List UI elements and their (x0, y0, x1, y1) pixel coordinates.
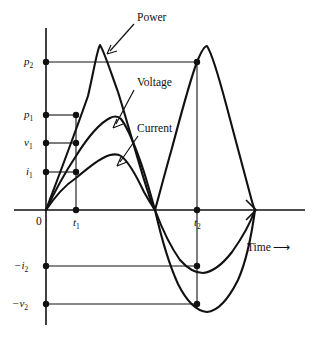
x-tick-sub-t1: 1 (76, 222, 80, 231)
y-tick-sub-v1: 1 (29, 142, 33, 151)
point-neg-i2-at-t2 (194, 263, 200, 269)
y-tick-sub-p2: 2 (30, 61, 34, 70)
waveform-plot (0, 0, 322, 337)
point-p2-axis (43, 59, 49, 65)
point-t2-axis (194, 207, 200, 213)
y-tick-label-i1: i1 (26, 166, 33, 180)
y-tick-label-neg-v2: −v2 (12, 298, 28, 312)
y-tick-label-p2: p2 (24, 56, 33, 70)
y-tick-label-p1: p1 (24, 109, 33, 123)
point-p2-at-t2 (194, 59, 200, 65)
point-t1-axis (73, 207, 79, 213)
x-tick-sub-t2: 2 (197, 222, 201, 231)
x-tick-label-t2: t2 (194, 217, 201, 231)
current-label: Current (137, 123, 172, 135)
y-tick-label-v1: v1 (24, 137, 33, 151)
power-leader-line (110, 24, 134, 51)
x-axis-label-text: Time (247, 241, 271, 253)
point-neg-v2-at-t2 (194, 301, 200, 307)
point-p1-at-t1 (73, 112, 79, 118)
point-v1-axis (43, 140, 49, 146)
y-tick-sub-neg-v2: 2 (24, 303, 28, 312)
power-label: Power (137, 12, 166, 24)
voltage-curve (46, 117, 255, 312)
origin-label: 0 (36, 216, 42, 228)
point-p1-axis (43, 112, 49, 118)
point-neg-i2-axis (43, 263, 49, 269)
point-i1-at-t1 (73, 169, 79, 175)
y-tick-sub-i1: 1 (29, 171, 33, 180)
x-tick-label-t1: t1 (73, 217, 80, 231)
marked-points (43, 59, 200, 307)
figure-root: p2 p1 v1 i1 −i2 −v2 0 t1 t2 Power Voltag… (0, 0, 322, 337)
y-tick-label-neg-i2: −i2 (14, 260, 28, 274)
voltage-label: Voltage (137, 77, 172, 89)
x-axis-label: Time⟶ (247, 242, 290, 254)
point-v1-at-t1 (73, 140, 79, 146)
point-i1-axis (43, 169, 49, 175)
point-neg-v2-axis (43, 301, 49, 307)
y-tick-sub-neg-i2: 2 (25, 265, 29, 274)
arrow-right-icon: ⟶ (273, 241, 290, 253)
y-tick-sub-p1: 1 (30, 114, 34, 123)
